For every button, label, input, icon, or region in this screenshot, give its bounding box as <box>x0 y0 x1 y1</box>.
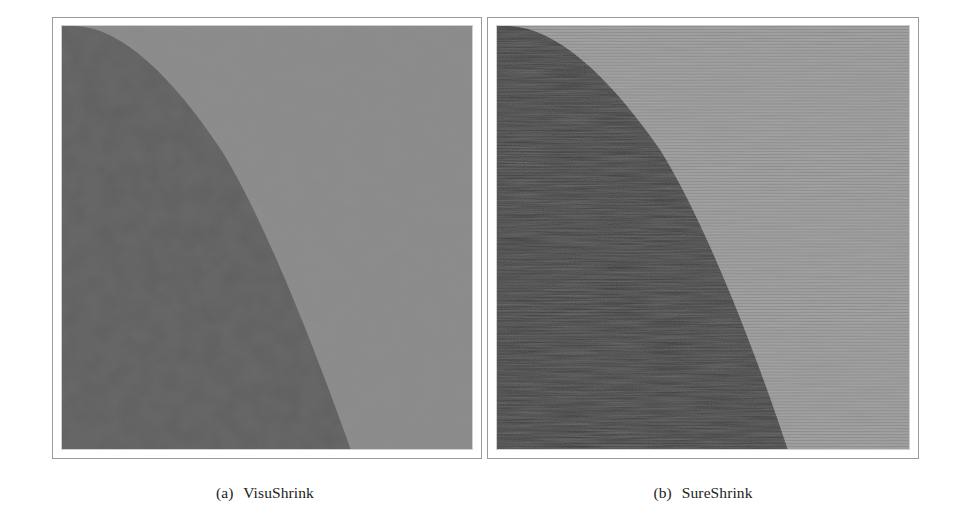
sureshrink-result-image <box>497 26 909 449</box>
caption-b: (b) SureShrink <box>553 484 853 502</box>
panel-a-image <box>61 25 473 450</box>
caption-b-label: (b) <box>653 484 671 501</box>
caption-a-title: VisuShrink <box>243 484 314 501</box>
panel-b-frame <box>487 17 919 459</box>
caption-a-label: (a) <box>216 484 234 501</box>
panel-b-image <box>496 25 910 450</box>
panel-a-frame <box>52 17 482 459</box>
caption-a: (a) VisuShrink <box>115 484 415 502</box>
caption-b-title: SureShrink <box>682 484 753 501</box>
visushrink-result-image <box>62 26 472 449</box>
